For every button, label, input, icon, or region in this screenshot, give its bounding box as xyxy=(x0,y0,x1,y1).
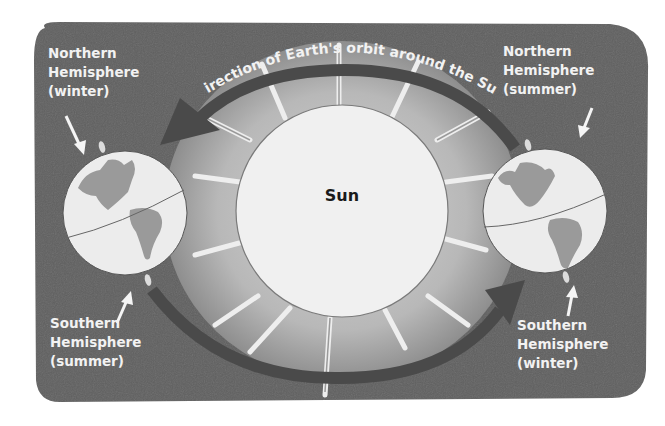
label-line: Hemisphere xyxy=(48,63,139,82)
label-line: Southern xyxy=(517,316,608,335)
sun-disc xyxy=(236,105,448,317)
label-line: (summer) xyxy=(50,352,141,371)
label-line: Northern xyxy=(48,44,139,63)
label-southern-hemisphere-winter: Southern Hemisphere (winter) xyxy=(517,316,608,373)
label-line: Hemisphere xyxy=(50,333,141,352)
label-line: (winter) xyxy=(48,82,139,101)
label-line: Hemisphere xyxy=(517,335,608,354)
label-southern-hemisphere-summer: Southern Hemisphere (summer) xyxy=(50,314,141,371)
label-line: Hemisphere xyxy=(503,61,594,80)
label-line: Northern xyxy=(503,42,594,61)
orbit-seasons-diagram: Direction of Earth's orbit around the Su… xyxy=(0,0,665,426)
label-northern-hemisphere-summer: Northern Hemisphere (summer) xyxy=(503,42,594,99)
sun-label: Sun xyxy=(302,186,382,205)
label-line: (summer) xyxy=(503,80,594,99)
label-northern-hemisphere-winter: Northern Hemisphere (winter) xyxy=(48,44,139,101)
label-line: (winter) xyxy=(517,354,608,373)
label-line: Southern xyxy=(50,314,141,333)
